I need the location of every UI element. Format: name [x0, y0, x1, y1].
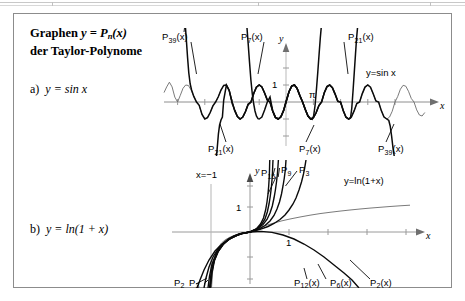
label-P-subscript: 39 [385, 149, 393, 156]
label-P-letter: P [299, 143, 305, 154]
label-P-subscript: 21 [215, 149, 223, 156]
label-P-subscript: 2 [181, 282, 185, 288]
chart-ln-taylor: y x 1 1 x=−1 y=ln(1+x) P 15 P 9 P 3 P 2 [154, 160, 452, 288]
ln-label-P6-bottom: P 6 (x) [330, 277, 352, 288]
sine-label-P21-top: P 21 (x) [348, 31, 374, 44]
caption-item-a: a) y = sin x [30, 82, 87, 97]
label-P-paren: (x) [252, 31, 263, 42]
label-P-letter: P [174, 277, 180, 288]
ln-x-tick-label-1: 1 [286, 237, 291, 248]
rule-tick [258, 2, 259, 6]
sine-label-P39-bottom: P 39 (x) [378, 143, 404, 156]
label-P-subscript: 21 [355, 37, 363, 44]
figure-title-math-tail: (x) [112, 26, 127, 40]
caption-item-a-text: y = sin x [45, 82, 87, 96]
caption-item-b-text: y = ln(1 + x) [46, 222, 108, 236]
figure-frame: Graphen y = Pn(x) der Taylor-Polynome a)… [13, 13, 452, 288]
label-P-letter: P [189, 277, 195, 288]
label-P-letter: P [241, 31, 247, 42]
sine-y-axis-label: y [278, 33, 284, 44]
y-axis-arrow [283, 43, 290, 52]
label-P-paren: (x) [309, 277, 320, 288]
label-P-letter: P [348, 31, 354, 42]
label-P-letter: P [294, 277, 300, 288]
rule-line-bottom [0, 5, 465, 6]
ln-label-P3-top: P 3 [299, 164, 310, 177]
label-P-paren: (x) [381, 277, 392, 288]
ln-y-tick-label-1: 1 [236, 202, 241, 213]
label-P-subscript: 39 [169, 37, 177, 44]
label-P-letter: P [330, 277, 336, 288]
figure-title-keyword: Graphen [30, 26, 78, 40]
ln-label-P2-bottomleft: P 2 [174, 277, 185, 288]
label-P-paren: (x) [363, 31, 374, 42]
curve-ln-reference [212, 205, 411, 288]
rule-tick [430, 2, 431, 6]
caption-item-a-marker: a) [30, 82, 39, 96]
sine-label-P21-bottom: P 21 (x) [208, 143, 234, 156]
sine-x-axis-label: x [439, 100, 445, 111]
label-P-paren: (x) [223, 143, 234, 154]
x-axis-arrow [416, 229, 425, 236]
label-P-paren: (x) [341, 277, 352, 288]
sine-label-P39-top: P 39 (x) [162, 31, 188, 44]
cut-off-table-rule [0, 2, 465, 6]
y-axis-arrow [247, 173, 254, 182]
rule-line-top [0, 2, 465, 3]
label-P-subscript: 15 [268, 173, 276, 180]
caption-item-b: b) y = ln(1 + x) [30, 222, 108, 237]
label-P-subscript: 9 [288, 170, 292, 177]
ln-reference-curve-label: y=ln(1+x) [344, 175, 384, 186]
ln-asymptote-label: x=−1 [196, 169, 217, 180]
sine-label-P7-top: P 7 (x) [241, 31, 263, 44]
label-P-subscript: 3 [306, 170, 310, 177]
label-P-letter: P [370, 277, 376, 288]
ln-label-P9: P 9 [281, 164, 292, 177]
ln-label-P2-bottomright: P 2 (x) [370, 277, 392, 288]
label-P-subscript: 3 [196, 282, 200, 288]
figure-title-line2: der Taylor-Polynome [30, 44, 142, 58]
label-P-paren: (x) [177, 31, 188, 42]
figure-title-math: y = P [81, 26, 108, 40]
label-P-letter: P [261, 167, 267, 178]
curve-P39 [186, 28, 395, 156]
label-P-letter: P [208, 143, 214, 154]
x-axis-arrow [430, 99, 439, 106]
chart-sine-taylor: y x 1 π y=sin x P 39 (x) P 7 (x) P 21 (x… [154, 28, 452, 156]
ln-x-axis-label: x [425, 230, 431, 241]
label-P-paren: (x) [393, 143, 404, 154]
sine-x-tick-label-pi: π [309, 89, 316, 100]
rule-tick [52, 2, 53, 6]
sine-y-tick-label-1: 1 [272, 79, 277, 90]
curve-P15 [211, 160, 270, 288]
label-P-paren: (x) [310, 143, 321, 154]
axis-group-sine [164, 43, 439, 146]
sine-reference-curve-label: y=sin x [366, 67, 396, 78]
label-P-letter: P [299, 164, 305, 175]
ln-label-P3-bottomleft: P 3 [189, 277, 200, 288]
label-P-letter: P [162, 31, 168, 42]
label-P-letter: P [378, 143, 384, 154]
label-P-letter: P [281, 164, 287, 175]
caption-item-b-marker: b) [30, 222, 40, 236]
sine-label-P7-bottom: P 7 (x) [299, 143, 321, 156]
curve-sin-reference [164, 82, 425, 119]
label-P-subscript: 12 [301, 282, 309, 288]
ln-y-axis-label: y [254, 165, 260, 176]
